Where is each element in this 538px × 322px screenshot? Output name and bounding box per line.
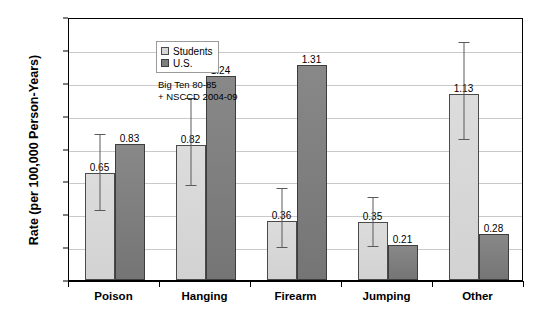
error-bar-cap-lower bbox=[276, 247, 287, 248]
bar-firearm-us bbox=[297, 65, 327, 280]
error-bar-cap-lower bbox=[458, 139, 469, 140]
error-bar bbox=[99, 134, 100, 210]
x-axis-label-poison: Poison bbox=[94, 290, 132, 302]
legend-item-us: U.S. bbox=[161, 57, 212, 69]
x-axis-tick-start bbox=[68, 281, 69, 287]
bar-value-label: 0.83 bbox=[120, 133, 139, 144]
error-bar bbox=[281, 188, 282, 247]
annotation-line-2: + NSCCD 2004-09 bbox=[158, 91, 237, 103]
bar-hanging-us bbox=[206, 76, 236, 280]
legend-label-students: Students bbox=[173, 46, 212, 57]
x-axis-label-hanging: Hanging bbox=[182, 290, 228, 302]
x-axis-label-other: Other bbox=[462, 290, 493, 302]
error-bar-cap-upper bbox=[94, 134, 105, 135]
legend-item-students: Students bbox=[161, 45, 212, 57]
bar-poison-us bbox=[115, 144, 145, 280]
x-axis-tick-mark bbox=[341, 281, 342, 287]
error-bar-cap-upper bbox=[367, 197, 378, 198]
bar-chart: Rate (per 100,000 Person-Years) 0.000.20… bbox=[0, 0, 538, 322]
error-bar bbox=[190, 98, 191, 185]
x-axis-tick-mark bbox=[432, 281, 433, 287]
error-bar bbox=[463, 42, 464, 139]
y-axis-title: Rate (per 100,000 Person-Years) bbox=[27, 20, 41, 280]
error-bar-cap-upper bbox=[458, 42, 469, 43]
students-swatch-icon bbox=[161, 47, 169, 55]
legend: Students U.S. bbox=[156, 41, 219, 73]
x-axis-tick-end bbox=[523, 281, 524, 287]
plot-area: 0.650.830.821.240.361.310.350.211.130.28… bbox=[68, 18, 523, 281]
gridline bbox=[69, 52, 522, 53]
error-bar bbox=[372, 197, 373, 246]
x-axis-label-jumping: Jumping bbox=[363, 290, 411, 302]
bar-value-label: 0.28 bbox=[484, 223, 503, 234]
error-bar-cap-lower bbox=[94, 210, 105, 211]
x-axis-line bbox=[68, 281, 523, 282]
annotation-block: Big Ten 80-85 + NSCCD 2004-09 bbox=[158, 79, 237, 102]
bar-other-us bbox=[479, 234, 509, 280]
x-axis-tick-mark bbox=[250, 281, 251, 287]
x-axis-tick-mark bbox=[159, 281, 160, 287]
us-swatch-icon bbox=[161, 59, 169, 67]
x-axis-label-firearm: Firearm bbox=[274, 290, 316, 302]
bar-value-label: 0.21 bbox=[393, 234, 412, 245]
annotation-line-1: Big Ten 80-85 bbox=[158, 79, 237, 91]
bar-value-label: 1.31 bbox=[302, 54, 321, 65]
bar-jumping-us bbox=[388, 245, 418, 280]
error-bar-cap-lower bbox=[367, 246, 378, 247]
legend-label-us: U.S. bbox=[173, 58, 192, 69]
error-bar-cap-lower bbox=[185, 185, 196, 186]
error-bar-cap-upper bbox=[276, 188, 287, 189]
